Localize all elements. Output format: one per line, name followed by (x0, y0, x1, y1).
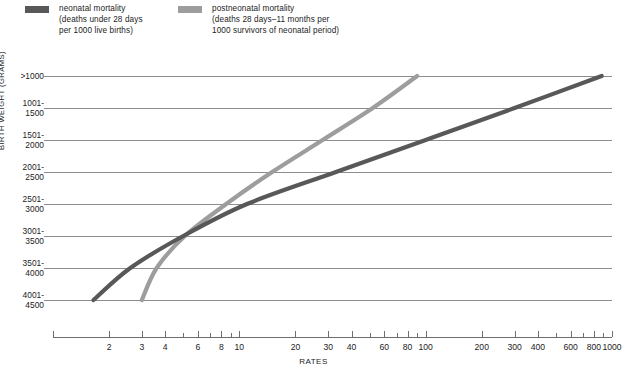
x-axis-tick (515, 331, 516, 337)
x-axis-tick (183, 333, 184, 337)
x-axis-tick (571, 331, 572, 337)
x-axis-start-cap (53, 331, 54, 337)
x-axis-tick (397, 333, 398, 337)
x-axis-tick (538, 331, 539, 337)
x-axis-tick (165, 331, 166, 337)
x-axis-tick (328, 331, 329, 337)
mortality-birthweight-chart: neonatal mortality (deaths under 28 days… (0, 0, 627, 376)
x-axis-tick (142, 331, 143, 337)
x-axis-tick (239, 331, 240, 337)
x-axis-tick (210, 333, 211, 337)
x-axis-label: 30 (323, 342, 333, 352)
curve-postneonatal (142, 76, 417, 300)
x-axis-tick (482, 331, 483, 337)
x-axis-tick (583, 333, 584, 337)
x-axis-tick (603, 333, 604, 337)
x-axis-label: 20 (291, 342, 301, 352)
x-axis-tick (231, 333, 232, 337)
x-axis-tick (109, 331, 110, 337)
x-axis-label: 60 (380, 342, 390, 352)
x-axis-tick (417, 333, 418, 337)
x-axis-tick (352, 331, 353, 337)
x-axis-tick (384, 331, 385, 337)
x-axis-label: 2 (107, 342, 112, 352)
x-axis-label: 40 (347, 342, 357, 352)
x-axis-label: 100 (418, 342, 432, 352)
x-axis-tick (612, 331, 613, 337)
x-axis-tick (594, 331, 595, 337)
x-axis-label: 600 (563, 342, 577, 352)
x-axis-tick (221, 331, 222, 337)
x-axis-label: 400 (531, 342, 545, 352)
x-axis-tick (556, 333, 557, 337)
x-axis-tick (426, 331, 427, 337)
x-axis-label: 80 (403, 342, 413, 352)
x-axis-label: 10 (235, 342, 245, 352)
x-axis-tick (408, 331, 409, 337)
x-axis-tick (370, 333, 371, 337)
x-axis-tick (198, 331, 199, 337)
x-axis-label: 6 (196, 342, 201, 352)
x-axis-label: 800 (587, 342, 601, 352)
x-axis-label: 300 (507, 342, 521, 352)
x-axis-label: 1000 (602, 342, 621, 352)
curve-neonatal (94, 76, 602, 300)
x-axis-tick (295, 331, 296, 337)
x-axis-label: 3 (140, 342, 145, 352)
x-axis-label: 200 (475, 342, 489, 352)
x-axis-title: RATES (0, 357, 627, 366)
data-curves (0, 0, 627, 376)
x-axis-label: 8 (219, 342, 224, 352)
x-axis-label: 4 (163, 342, 168, 352)
x-axis-line (53, 337, 612, 338)
